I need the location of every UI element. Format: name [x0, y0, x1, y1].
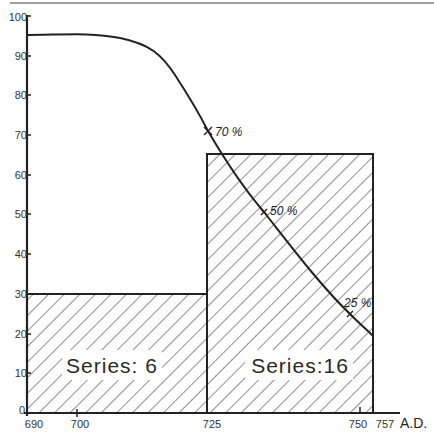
bar1-label: Series: 6: [66, 354, 158, 377]
marker-25-label: 25 %: [343, 296, 372, 310]
svg-text:700: 700: [71, 418, 89, 430]
bar2-label: Series:16: [251, 354, 349, 377]
svg-text:30: 30: [15, 288, 27, 300]
svg-text:757: 757: [376, 418, 394, 430]
svg-text:50: 50: [15, 208, 27, 220]
svg-text:70: 70: [15, 129, 27, 141]
svg-text:40: 40: [15, 248, 27, 260]
marker-70-label: 70 %: [215, 125, 243, 139]
x-tick-labels: 690 700 725 750 757: [25, 418, 394, 430]
chart: 100 90 80 70 60 50 40 30 20 10 0 690 700…: [0, 0, 434, 435]
svg-text:80: 80: [15, 89, 27, 101]
svg-text:10: 10: [15, 367, 27, 379]
x-axis-unit: A.D.: [400, 415, 427, 431]
marker-50-label: 50 %: [270, 204, 298, 218]
svg-text:750: 750: [349, 418, 367, 430]
svg-text:20: 20: [15, 328, 27, 340]
svg-text:0: 0: [19, 404, 25, 416]
svg-text:60: 60: [15, 169, 27, 181]
svg-text:725: 725: [203, 418, 221, 430]
y-tick-labels: 100 90 80 70 60 50 40 30 20 10 0: [9, 11, 27, 416]
svg-text:690: 690: [25, 418, 43, 430]
svg-text:100: 100: [9, 11, 27, 23]
svg-text:90: 90: [15, 50, 27, 62]
